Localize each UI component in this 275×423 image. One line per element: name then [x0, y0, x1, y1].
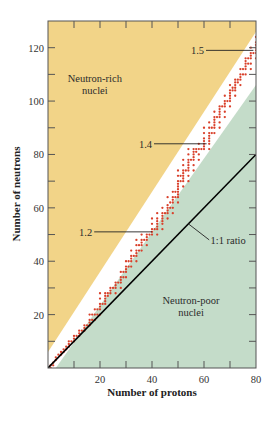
nucleus-point [218, 127, 220, 129]
nucleus-point [187, 148, 189, 150]
nucleus-point [130, 260, 132, 262]
nucleus-point [172, 207, 174, 209]
nucleus-point [130, 265, 132, 267]
nucleus-point [231, 87, 233, 89]
y-tick-label: 120 [28, 43, 44, 54]
nucleus-point [250, 52, 252, 54]
nucleus-point [125, 268, 127, 270]
nucleus-point [135, 249, 137, 251]
nucleus-point [112, 287, 114, 289]
nucleus-point [125, 271, 127, 273]
nucleus-point [177, 196, 179, 198]
nucleus-point [156, 233, 158, 235]
nucleus-point [68, 340, 70, 342]
nucleus-point [135, 260, 137, 262]
nucleus-point [192, 159, 194, 161]
nucleus-point [109, 287, 111, 289]
nucleus-point [224, 116, 226, 118]
nucleus-point [224, 100, 226, 102]
nucleus-point [239, 84, 241, 86]
nucleus-point [172, 199, 174, 201]
nucleus-point [244, 60, 246, 62]
nucleus-point [182, 172, 184, 174]
nucleus-point [211, 127, 213, 129]
nucleus-point [234, 89, 236, 91]
nucleus-point [135, 255, 137, 257]
nucleus-point [166, 207, 168, 209]
nucleus-point [208, 121, 210, 123]
nucleus-point [213, 127, 215, 129]
nucleus-point [226, 100, 228, 102]
nucleus-point [99, 303, 101, 305]
nucleus-point [109, 292, 111, 294]
nucleus-point [187, 153, 189, 155]
nucleus-point [104, 292, 106, 294]
nucleus-point [213, 119, 215, 121]
nucleus-point [146, 244, 148, 246]
nucleus-point [177, 183, 179, 185]
nucleus-point [250, 68, 252, 70]
nucleus-point [250, 57, 252, 59]
nucleus-point [117, 281, 119, 283]
nucleus-point [198, 148, 200, 150]
nucleus-point [104, 300, 106, 302]
nucleus-point [179, 175, 181, 177]
nucleus-point [127, 260, 129, 262]
nucleus-point [140, 233, 142, 235]
nucleus-point [192, 156, 194, 158]
nucleus-point [187, 180, 189, 182]
nucleus-point [239, 79, 241, 81]
nucleus-point [161, 217, 163, 219]
nucleus-point [208, 148, 210, 150]
y-tick-label: 80 [34, 149, 45, 160]
nucleus-point [218, 105, 220, 107]
nucleus-point [109, 289, 111, 291]
nucleus-point [125, 260, 127, 262]
nucleus-point [187, 159, 189, 161]
nucleus-point [182, 164, 184, 166]
y-tick-label: 100 [28, 96, 44, 107]
nucleus-point [177, 193, 179, 195]
nucleus-point [172, 212, 174, 214]
nucleus-point [96, 308, 98, 310]
nucleus-point [114, 281, 116, 283]
nucleus-point [203, 140, 205, 142]
nucleus-point [211, 132, 213, 134]
nucleus-point [250, 55, 252, 57]
nucleus-point [218, 113, 220, 115]
nucleus-point [203, 148, 205, 150]
ratio-label: 1.2 [79, 227, 92, 238]
nucleus-point [229, 105, 231, 107]
nucleus-point [127, 265, 129, 267]
nucleus-point [229, 92, 231, 94]
nucleus-point [140, 244, 142, 246]
nucleus-point [140, 249, 142, 251]
nucleus-point [179, 180, 181, 182]
nucleus-point [182, 180, 184, 182]
nucleus-point [174, 191, 176, 193]
nucleus-point [161, 212, 163, 214]
nucleus-point [138, 249, 140, 251]
nucleus-point [156, 228, 158, 230]
nucleus-point [187, 167, 189, 169]
nucleus-point [213, 124, 215, 126]
nucleus-point [187, 169, 189, 171]
nucleus-point [166, 209, 168, 211]
nucleus-point [208, 127, 210, 129]
nucleus-point [250, 63, 252, 65]
nucleus-point [166, 204, 168, 206]
nucleus-point [221, 105, 223, 107]
nucleus-point [151, 217, 153, 219]
nucleus-point [242, 73, 244, 75]
nucleus-point [161, 223, 163, 225]
nucleus-point [133, 255, 135, 257]
nucleus-point [192, 148, 194, 150]
nucleus-point [161, 207, 163, 209]
nucleus-point [146, 239, 148, 241]
ratio-label: 1.4 [139, 139, 153, 150]
nucleus-point [200, 148, 202, 150]
nucleus-point [172, 201, 174, 203]
nucleus-point [229, 84, 231, 86]
nucleus-point [208, 140, 210, 142]
nucleus-point [218, 111, 220, 113]
